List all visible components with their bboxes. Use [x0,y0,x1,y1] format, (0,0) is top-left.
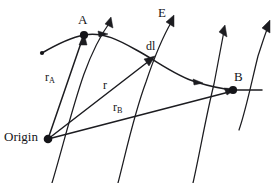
label-vector-rb: rB [113,101,122,115]
diagram-canvas [0,0,280,183]
label-vector-rb-subscript: B [117,106,122,115]
field-line-3 [193,31,224,183]
label-origin: Origin [4,130,38,143]
field-line-1-arrowhead [105,17,113,28]
path-start-dot [40,51,44,55]
field-line-2 [118,21,172,183]
vector-r-line [48,61,149,139]
point-marker-group [44,31,237,143]
physics-field-diagram: A E dl B rA r rB Origin [0,0,280,183]
label-vector-ra-subscript: A [49,76,55,85]
label-point-a: A [78,13,87,26]
point-a-dot [80,31,88,39]
vector-rb-line [48,92,229,139]
field-line-4 [239,27,268,130]
vector-ra-line [48,40,82,139]
label-field-e: E [158,6,166,19]
label-point-b: B [234,70,243,83]
label-vector-r: r [103,79,107,91]
origin-dot [44,135,53,144]
label-path-element-dl: dl [146,40,155,52]
point-b-dot [229,86,237,94]
label-vector-ra: rA [45,71,55,85]
